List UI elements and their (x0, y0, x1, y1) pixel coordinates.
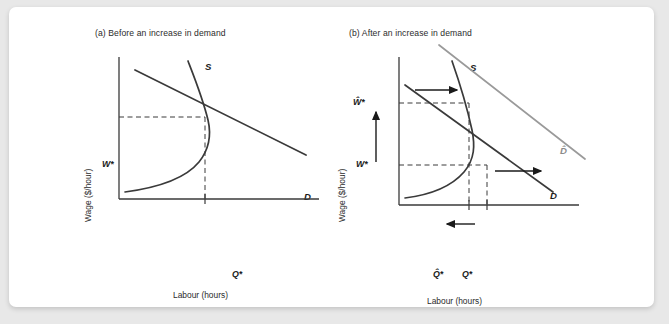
panel-b-demand-curve (405, 85, 553, 192)
panel-b-new-demand-curve (439, 45, 585, 159)
panel-b-supply-curve (405, 61, 474, 198)
panel-a-supply-curve (125, 61, 210, 192)
figure-card: (a) Before an increase in demand Wage ($… (9, 7, 654, 307)
panel-after-increase: (b) After an increase in demand Wage ($/… (329, 7, 629, 307)
panel-b-plot (329, 7, 629, 307)
panel-a-demand-curve (135, 70, 306, 155)
